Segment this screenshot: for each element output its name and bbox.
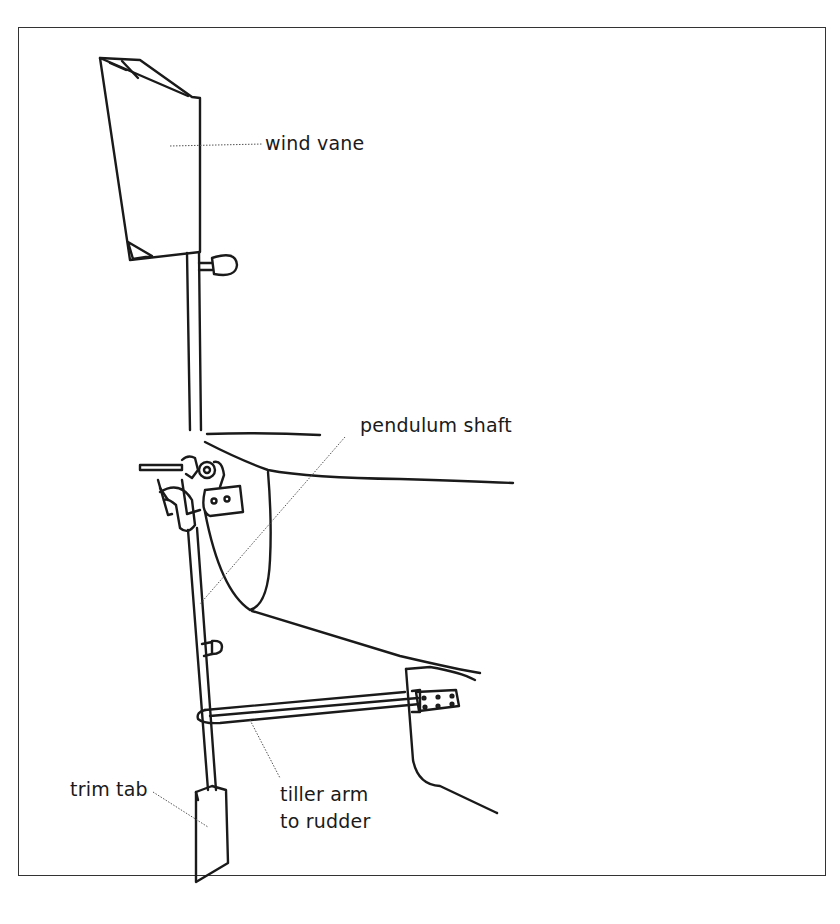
pendulum-shaft-shape — [188, 528, 222, 790]
label-trim-tab: trim tab — [70, 776, 148, 803]
label-tiller-arm-line2: to rudder — [280, 808, 370, 835]
mounting-bracket — [140, 456, 243, 530]
wind-vane-leader — [170, 144, 263, 146]
tiller-arm-shape — [198, 690, 459, 723]
hull-lines — [205, 433, 513, 813]
trim-tab-leader — [153, 792, 208, 827]
wind-vane-shape — [100, 58, 237, 430]
label-tiller-arm-line1: tiller arm — [280, 781, 368, 808]
pendulum-shaft-leader — [200, 437, 345, 604]
trim-tab-shape — [196, 786, 228, 882]
label-wind-vane: wind vane — [265, 130, 364, 157]
tiller-arm-leader — [250, 720, 280, 778]
label-pendulum-shaft: pendulum shaft — [360, 412, 512, 439]
